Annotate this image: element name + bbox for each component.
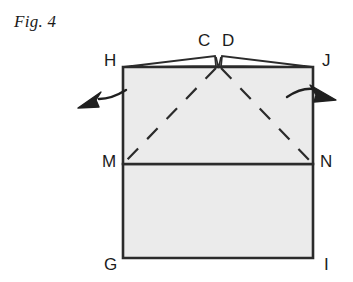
right-flap-shape xyxy=(221,56,312,67)
figure-container: Fig. 4 H C D J M N G I xyxy=(0,0,353,282)
vertex-label-d: D xyxy=(222,32,234,49)
vertex-label-c: C xyxy=(198,32,210,49)
vertex-label-h: H xyxy=(104,52,116,69)
lower-panel-shape xyxy=(123,164,313,258)
left-fold-arrow-head xyxy=(78,92,101,108)
vertex-label-g: G xyxy=(104,256,117,273)
vertex-label-j: J xyxy=(322,52,331,69)
left-flap-shape xyxy=(124,56,216,67)
upper-panel-shape xyxy=(123,67,313,164)
figure-diagram xyxy=(0,0,353,282)
vertex-label-n: N xyxy=(320,153,332,170)
vertex-label-m: M xyxy=(102,153,116,170)
figure-caption: Fig. 4 xyxy=(14,12,56,32)
vertex-label-i: I xyxy=(324,256,329,273)
